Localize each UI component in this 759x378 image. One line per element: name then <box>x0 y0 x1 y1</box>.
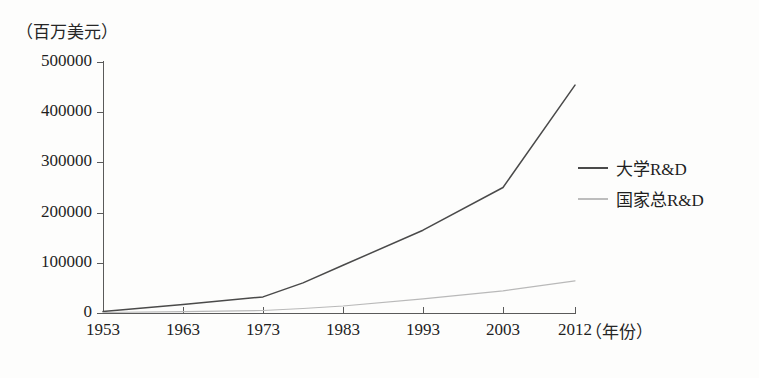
y-axis-tick-300000 <box>97 162 104 163</box>
chart-page: （百万美元） 5000004000003000002000001000000 1… <box>0 0 759 378</box>
y-axis-tick-label-200000: 200000 <box>41 202 92 222</box>
x-axis-tick-label-1963: 1963 <box>166 320 200 340</box>
x-axis-tick-label-1953: 1953 <box>86 320 120 340</box>
y-axis-tick-100000 <box>97 263 104 264</box>
series-line-university-rd <box>103 85 575 311</box>
series-line-national-total-rd <box>103 281 575 313</box>
chart-legend: 大学R&D国家总R&D <box>578 152 753 214</box>
x-axis-unit-label: （年份） <box>585 318 653 343</box>
x-axis-line <box>103 313 576 314</box>
x-axis-tick-1973 <box>263 307 264 314</box>
y-axis-tick-label-500000: 500000 <box>41 51 92 71</box>
legend-line-swatch-icon <box>578 198 608 200</box>
x-axis-tick-1993 <box>423 307 424 314</box>
legend-item-university-rd: 大学R&D <box>578 152 753 183</box>
y-axis-tick-label-400000: 400000 <box>41 101 92 121</box>
legend-item-national-total-rd: 国家总R&D <box>578 183 753 214</box>
x-axis-tick-label-1983: 1983 <box>326 320 360 340</box>
legend-label: 国家总R&D <box>616 186 704 211</box>
legend-line-swatch-icon <box>578 167 608 169</box>
x-axis-tick-1963 <box>183 307 184 314</box>
y-axis-tick-label-0: 0 <box>84 302 93 322</box>
x-axis-tick-2003 <box>503 307 504 314</box>
y-axis-tick-label-300000: 300000 <box>41 151 92 171</box>
x-axis-tick-label-1993: 1993 <box>406 320 440 340</box>
legend-label: 大学R&D <box>616 155 687 180</box>
x-axis-tick-1953 <box>103 307 104 314</box>
x-axis-tick-2012 <box>575 307 576 314</box>
y-axis-line <box>103 61 104 314</box>
x-axis-tick-1983 <box>343 307 344 314</box>
x-axis-tick-label-2003: 2003 <box>486 320 520 340</box>
y-axis-tick-200000 <box>97 213 104 214</box>
y-axis-tick-labels: 5000004000003000002000001000000 <box>0 0 92 378</box>
y-axis-tick-label-100000: 100000 <box>41 252 92 272</box>
y-axis-tick-400000 <box>97 112 104 113</box>
x-axis-tick-label-1973: 1973 <box>246 320 280 340</box>
y-axis-tick-500000 <box>97 62 104 63</box>
